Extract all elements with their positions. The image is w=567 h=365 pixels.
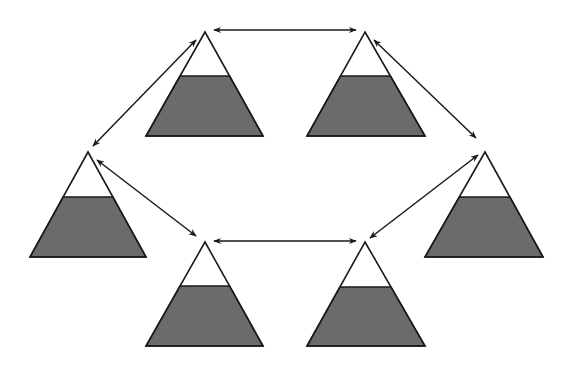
triangle-network-diagram — [0, 0, 567, 365]
triangle-node-middle-right — [425, 152, 543, 257]
triangle-node-bottom-right — [307, 242, 425, 346]
triangle-node-bottom-left — [146, 242, 263, 346]
triangle-nodes — [30, 32, 543, 346]
triangle-node-top-right — [307, 32, 425, 136]
triangle-node-top-left — [146, 32, 263, 136]
diagram-canvas — [0, 0, 567, 365]
triangle-node-middle-left — [30, 152, 146, 257]
